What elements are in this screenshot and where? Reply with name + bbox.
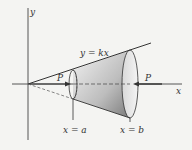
boundary-a-label: x = a xyxy=(63,125,87,135)
force-left-arrowhead xyxy=(65,82,71,87)
frustum-diagram: y x y = kx P P x = a x = b xyxy=(0,0,192,150)
y-axis-label: y xyxy=(29,7,36,17)
diagram-canvas: y x y = kx P P x = a x = b xyxy=(0,0,192,150)
line-label: y = kx xyxy=(79,48,109,58)
force-right-label: P xyxy=(144,73,152,83)
x-axis-label: x xyxy=(176,86,181,96)
force-left-label: P xyxy=(56,73,64,83)
lower-generator-dashed xyxy=(28,84,73,99)
boundary-b-label: x = b xyxy=(120,125,144,135)
